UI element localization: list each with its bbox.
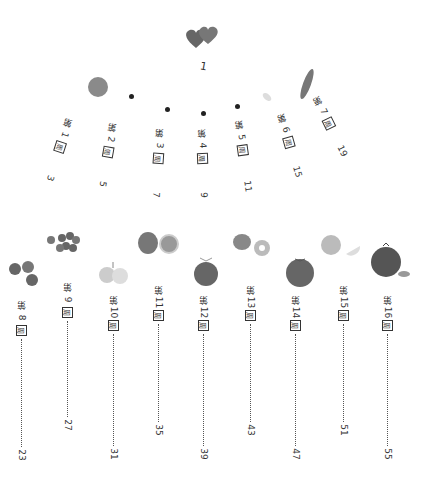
- toc-entry[interactable]: 第8周23: [16, 300, 27, 460]
- page-number: 43: [246, 424, 256, 435]
- seed-icon: [129, 94, 134, 99]
- toc-entry[interactable]: 第9周27: [62, 282, 73, 430]
- week-suffix: 周: [153, 153, 165, 165]
- week-number: 14: [291, 307, 300, 318]
- week-prefix: 第: [197, 128, 206, 138]
- toc-entry[interactable]: 第11周35: [153, 285, 164, 435]
- week-prefix: 第: [234, 119, 244, 130]
- toc-entry[interactable]: 第3周7: [150, 128, 166, 201]
- grapes-icon: [46, 228, 86, 262]
- leaf-icon: [261, 91, 273, 102]
- week-number: 9: [63, 297, 72, 303]
- week-number: 2: [106, 136, 116, 143]
- page-number: 51: [339, 424, 349, 435]
- week-prefix: 第: [246, 285, 255, 295]
- week-prefix: 第: [62, 117, 74, 129]
- week-suffix: 周: [322, 116, 337, 131]
- week-prefix: 第: [199, 295, 208, 305]
- toc-entry[interactable]: 第4周9: [196, 128, 210, 200]
- toc-entry[interactable]: 第12周39: [198, 295, 209, 459]
- week-suffix: 周: [237, 144, 249, 156]
- week-prefix: 第: [276, 112, 287, 124]
- page-number: 35: [154, 424, 164, 435]
- week-number: 11: [154, 297, 163, 308]
- page-number: 55: [383, 448, 393, 459]
- page-number: 23: [17, 449, 27, 460]
- toc-entry[interactable]: 第10周31: [108, 295, 119, 459]
- page-number: 15: [291, 165, 304, 179]
- week-prefix: 第: [155, 128, 165, 139]
- week-number: 1: [59, 131, 69, 139]
- page-number: 5: [97, 180, 108, 187]
- tomato-icon: [283, 255, 317, 291]
- page-number: 3: [44, 174, 55, 183]
- leader-dots: [250, 324, 251, 422]
- leader-dots: [387, 334, 388, 446]
- page-number: 7: [151, 192, 161, 198]
- week-suffix: 周: [198, 320, 209, 331]
- week-prefix: 第: [107, 121, 118, 132]
- week-number: 8: [17, 315, 26, 321]
- lemon-icon: [320, 234, 362, 262]
- week-suffix: 周: [102, 146, 115, 159]
- seed-icon: [165, 107, 170, 112]
- page-number: 9: [199, 192, 209, 198]
- kiwi-icon: [232, 232, 272, 262]
- seed-icon: [235, 104, 240, 109]
- leader-dots: [67, 321, 68, 417]
- page-number: 47: [291, 448, 301, 459]
- plum-icon: [88, 77, 108, 97]
- week-prefix: 第: [63, 282, 72, 292]
- toc-entry[interactable]: 第2周5: [96, 121, 119, 190]
- week-suffix: 周: [382, 320, 393, 331]
- week-number: 3: [155, 142, 164, 148]
- week-prefix: 第: [312, 94, 324, 107]
- week-suffix: 周: [62, 307, 73, 318]
- week-number: 6: [280, 126, 290, 134]
- page-number: 31: [109, 448, 119, 459]
- week-number: 10: [109, 307, 118, 318]
- leader-dots: [203, 334, 204, 446]
- week-number: 4: [198, 142, 207, 148]
- week-suffix: 周: [290, 320, 301, 331]
- week-prefix: 第: [339, 285, 348, 295]
- seed-icon: [201, 111, 206, 116]
- week-suffix: 周: [16, 325, 27, 336]
- week-suffix: 周: [282, 136, 296, 150]
- toc-entry[interactable]: 第6周15: [275, 111, 304, 178]
- week-number: 5: [236, 134, 246, 141]
- week-suffix: 周: [338, 310, 349, 321]
- week-suffix: 周: [245, 310, 256, 321]
- toc-entry[interactable]: 第5周11: [233, 119, 254, 192]
- week-suffix: 周: [53, 140, 67, 154]
- page-title: 1: [199, 59, 208, 73]
- leader-dots: [158, 324, 159, 422]
- pomegranate-icon: [370, 242, 414, 286]
- toc-entry[interactable]: 第7周19: [311, 93, 350, 157]
- week-number: 16: [383, 307, 392, 318]
- leader-dots: [113, 334, 114, 446]
- week-prefix: 第: [109, 295, 118, 305]
- pears-icon: [98, 258, 130, 292]
- page-number: 11: [242, 180, 253, 193]
- leader-dots: [295, 334, 296, 446]
- week-number: 7: [318, 107, 329, 116]
- week-prefix: 第: [291, 295, 300, 305]
- page-number: 27: [63, 419, 73, 430]
- page-number: 19: [335, 143, 349, 158]
- figs-icon: [137, 230, 181, 260]
- toc-entry[interactable]: 第15周51: [338, 285, 349, 435]
- week-number: 12: [199, 307, 208, 318]
- toc-entry[interactable]: 第14周47: [290, 295, 301, 459]
- toc-entry[interactable]: 第16周55: [382, 295, 393, 459]
- tangerine-icon: [190, 252, 222, 290]
- toc-entry[interactable]: 第13周43: [245, 285, 256, 435]
- week-prefix: 第: [383, 295, 392, 305]
- week-suffix: 周: [197, 153, 208, 164]
- blueberries-icon: [6, 258, 44, 292]
- week-prefix: 第: [154, 285, 163, 295]
- week-suffix: 周: [108, 320, 119, 331]
- week-suffix: 周: [153, 310, 164, 321]
- week-number: 13: [246, 297, 255, 308]
- toc-entry[interactable]: 第1周3: [43, 116, 74, 184]
